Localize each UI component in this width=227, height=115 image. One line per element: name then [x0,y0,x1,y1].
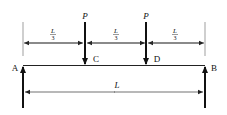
svg-text:L: L [172,27,177,35]
svg-text:L: L [50,27,55,35]
load-label-d: P [142,11,149,21]
total-length-label: L [113,80,119,90]
point-label-b: B [211,63,217,73]
point-label-c: C [93,54,99,64]
fraction-label-2: L 3 [113,27,119,41]
svg-text:L: L [113,27,118,35]
point-label-d: D [154,54,161,64]
svg-text:3: 3 [52,35,55,41]
fraction-label-1: L 3 [50,27,56,41]
point-label-a: A [12,63,19,73]
svg-text:3: 3 [115,35,118,41]
load-label-c: P [81,11,88,21]
fraction-label-3: L 3 [172,27,178,41]
svg-text:3: 3 [174,35,177,41]
beam-diagram: L 3 L 3 L 3 P P L A B C D [0,0,227,115]
